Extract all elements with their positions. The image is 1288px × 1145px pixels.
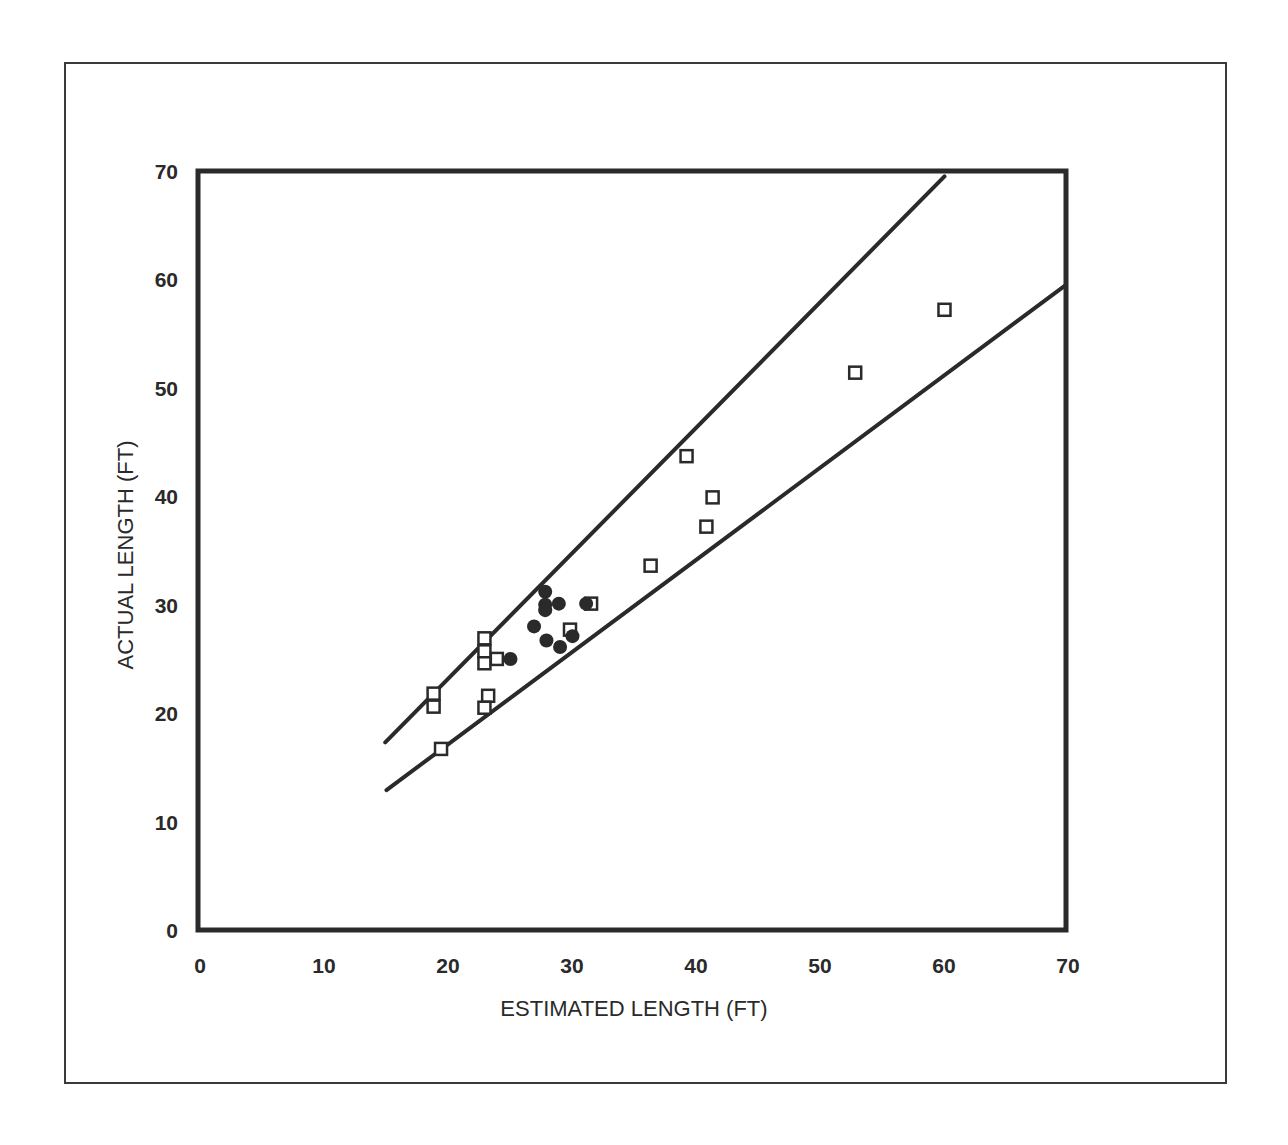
data-points (428, 304, 951, 755)
x-axis-label: ESTIMATED LENGTH (FT) (500, 996, 767, 1021)
square-marker (478, 702, 490, 714)
circle-marker (527, 619, 541, 633)
y-tick-label: 10 (155, 811, 178, 834)
scatter-chart: 010203040506070 010203040506070 ESTIMATE… (0, 0, 1288, 1145)
y-tick-label: 30 (155, 594, 178, 617)
square-marker (700, 521, 712, 533)
y-tick-label: 70 (155, 160, 178, 183)
square-marker (478, 657, 490, 669)
square-marker (482, 690, 494, 702)
circle-marker (579, 597, 593, 611)
square-marker (491, 653, 503, 665)
x-tick-labels: 010203040506070 (194, 954, 1080, 977)
y-tick-label: 0 (166, 919, 178, 942)
circle-marker (539, 633, 553, 647)
square-marker (645, 560, 657, 572)
x-tick-label: 40 (684, 954, 707, 977)
y-tick-label: 50 (155, 377, 178, 400)
circle-marker (538, 603, 552, 617)
circle-marker (552, 597, 566, 611)
x-tick-label: 0 (194, 954, 206, 977)
square-marker (938, 304, 950, 316)
y-tick-label: 60 (155, 268, 178, 291)
x-tick-label: 50 (808, 954, 831, 977)
y-tick-label: 40 (155, 485, 178, 508)
y-tick-label: 20 (155, 702, 178, 725)
x-tick-label: 10 (312, 954, 335, 977)
circle-marker (538, 585, 552, 599)
plot-area-frame (198, 171, 1066, 930)
square-marker (707, 491, 719, 503)
circle-marker (503, 652, 517, 666)
square-marker (478, 645, 490, 657)
x-tick-label: 30 (560, 954, 583, 977)
x-tick-label: 20 (436, 954, 459, 977)
circle-marker (565, 629, 579, 643)
square-marker (849, 367, 861, 379)
x-tick-label: 70 (1056, 954, 1079, 977)
circle-marker (553, 640, 567, 654)
square-marker (428, 701, 440, 713)
y-tick-labels: 010203040506070 (155, 160, 178, 942)
x-tick-label: 60 (932, 954, 955, 977)
y-axis-label: ACTUAL LENGTH (FT) (113, 441, 138, 670)
square-marker (428, 688, 440, 700)
square-marker (681, 450, 693, 462)
square-marker (478, 632, 490, 644)
square-marker (435, 743, 447, 755)
bound-line (385, 176, 944, 742)
